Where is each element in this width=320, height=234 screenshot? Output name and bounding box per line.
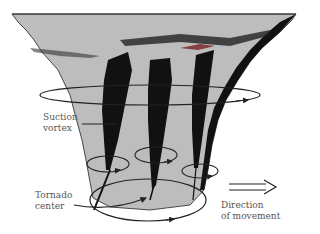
label-line: Tornado: [35, 190, 72, 201]
direction-arrow-icon: [229, 180, 276, 194]
label-line: vortex: [43, 123, 78, 134]
label-line: Direction: [221, 200, 280, 211]
label-line: center: [35, 201, 72, 212]
label-tornado-center: Tornado center: [35, 190, 72, 212]
label-line: Suction: [43, 112, 78, 123]
label-line: of movement: [221, 211, 280, 222]
label-suction-vortex: Suction vortex: [43, 112, 78, 134]
label-direction-of-movement: Direction of movement: [221, 200, 280, 222]
